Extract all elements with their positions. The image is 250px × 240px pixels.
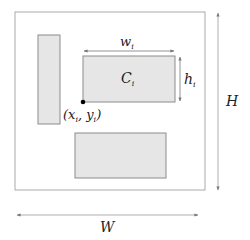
placement-diagram: wi Ci hi (xi, yi) H W [0,0,250,240]
anchor-label: (xi, yi) [63,107,101,124]
container-width-label: W [100,219,116,235]
anchor-point [81,100,86,105]
tall-rect [38,35,60,124]
width-label: wi [120,34,134,51]
container-height-label: H [225,93,239,109]
height-label: hi [184,71,196,89]
lower-rect [75,133,166,178]
